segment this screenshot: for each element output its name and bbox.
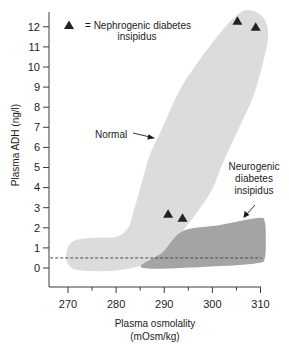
neurogenic-label-line2: diabetes	[235, 173, 273, 184]
y-tick-label: 9	[34, 81, 40, 93]
y-axis: 0123456789101112 Plasma ADH (ng/l)	[10, 12, 50, 287]
neurogenic-arrow-line	[247, 205, 255, 214]
legend-label-line2: insipidus	[118, 31, 157, 42]
y-tick-label: 2	[34, 222, 40, 234]
neurogenic-annotation: Neurogenic diabetes insipidus	[228, 161, 279, 218]
y-axis-title: Plasma ADH (ng/l)	[10, 104, 21, 186]
y-tick-label: 0	[34, 262, 40, 274]
y-tick-label: 1	[34, 242, 40, 254]
y-tick-label: 12	[28, 21, 40, 33]
y-tick-label: 8	[34, 101, 40, 113]
y-tick-label: 3	[34, 202, 40, 214]
y-ticks: 0123456789101112	[28, 21, 49, 274]
neurogenic-label-line3: insipidus	[235, 185, 274, 196]
legend: = Nephrogenic diabetes insipidus	[64, 20, 191, 42]
x-tick-label: 270	[59, 298, 77, 310]
normal-annotation: Normal	[95, 129, 155, 140]
y-tick-label: 11	[29, 41, 40, 53]
y-tick-label: 7	[34, 121, 40, 133]
y-tick-label: 4	[34, 181, 40, 193]
legend-label-line1: = Nephrogenic diabetes	[85, 20, 191, 31]
x-axis: 270280290300310 Plasma osmolality (mOsm/…	[49, 287, 270, 342]
normal-arrow-line	[133, 133, 150, 137]
x-tick-label: 300	[203, 298, 221, 310]
y-tick-label: 10	[28, 61, 40, 73]
normal-label: Normal	[95, 129, 127, 140]
shaded-regions	[66, 10, 268, 271]
adh-osmolality-chart: 0123456789101112 Plasma ADH (ng/l) 27028…	[0, 0, 289, 348]
x-ticks: 270280290300310	[59, 287, 270, 310]
y-tick-label: 6	[34, 141, 40, 153]
legend-triangle-icon	[64, 21, 74, 30]
x-axis-title-line1: Plasma osmolality	[115, 318, 196, 329]
x-axis-title-line2: (mOsm/kg)	[130, 331, 179, 342]
x-tick-label: 280	[107, 298, 125, 310]
x-tick-label: 310	[251, 298, 269, 310]
x-tick-label: 290	[155, 298, 173, 310]
neurogenic-label-line1: Neurogenic	[228, 161, 279, 172]
normal-arrow-head-icon	[147, 134, 155, 139]
y-tick-label: 5	[34, 161, 40, 173]
